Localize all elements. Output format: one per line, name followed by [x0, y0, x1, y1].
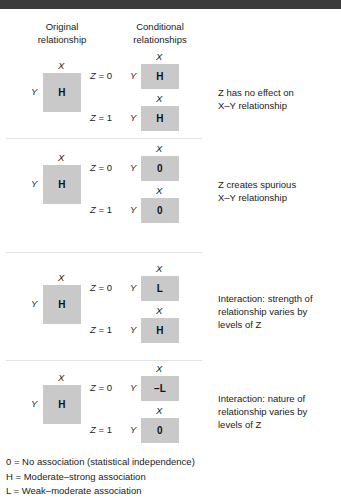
block-separator	[6, 138, 202, 139]
axis-label-x: X	[156, 51, 162, 62]
relationship-block-interaction-nature: X Y H Z = 0 X Y –L Z = 1 X Y 0 Interacti…	[0, 372, 341, 450]
z-variable: Z	[90, 424, 96, 435]
column-header-conditional: Conditional relationships	[108, 21, 212, 46]
z-variable: Z	[90, 324, 96, 335]
axis-label-y: Y	[130, 204, 136, 215]
axis-label-y: Y	[31, 298, 37, 309]
z-variable: Z	[90, 204, 96, 215]
axis-label-y: Y	[130, 70, 136, 81]
legend-item-h: H = Moderate–strong association	[6, 470, 336, 485]
z-variable: Z	[90, 112, 96, 123]
relationship-block-interaction-strength: X Y H Z = 0 X Y L Z = 1 X Y H Interactio…	[0, 272, 341, 350]
axis-label-x: X	[156, 93, 162, 104]
original-cell: H	[43, 73, 81, 112]
legend-item-0: 0 = No association (statistical independ…	[6, 455, 336, 470]
conditional-cell-z0: L	[141, 276, 179, 301]
conditional-cell-z1: 0	[141, 198, 179, 223]
condition-label-z1: Z = 1	[90, 424, 112, 435]
axis-label-y: Y	[31, 86, 37, 97]
condition-label-z1: Z = 1	[90, 204, 112, 215]
block-description: Z has no effect on X–Y relationship	[218, 86, 336, 112]
original-cell: H	[43, 385, 81, 424]
axis-label-y: Y	[130, 424, 136, 435]
axis-label-x: X	[58, 272, 64, 283]
condition-label-z1: Z = 1	[90, 324, 112, 335]
condition-label-z0: Z = 0	[90, 70, 112, 81]
original-cell: H	[43, 165, 81, 204]
axis-label-x: X	[156, 405, 162, 416]
axis-label-x: X	[156, 263, 162, 274]
condition-label-z1: Z = 1	[90, 112, 112, 123]
conditional-cell-z1: H	[141, 106, 179, 131]
block-description: Z creates spurious X–Y relationship	[218, 178, 336, 204]
relationship-block-no-effect: X Y H Z = 0 X Y H Z = 1 X Y H Z has no e…	[0, 60, 341, 138]
axis-label-x: X	[156, 185, 162, 196]
legend-item-l: L = Weak–moderate association	[6, 484, 336, 498]
condition-label-z0: Z = 0	[90, 162, 112, 173]
axis-label-y: Y	[31, 398, 37, 409]
block-separator	[6, 252, 202, 253]
block-separator	[6, 360, 202, 361]
z-variable: Z	[90, 382, 96, 393]
conditional-cell-z1: H	[141, 318, 179, 343]
original-cell: H	[43, 285, 81, 324]
block-description: Interaction: strength of relationship va…	[218, 292, 336, 331]
conditional-cell-z0: H	[141, 64, 179, 89]
axis-label-y: Y	[130, 324, 136, 335]
axis-label-x: X	[156, 305, 162, 316]
condition-label-z0: Z = 0	[90, 282, 112, 293]
conditional-cell-z0: –L	[141, 376, 179, 401]
condition-label-z0: Z = 0	[90, 382, 112, 393]
z-variable: Z	[90, 282, 96, 293]
relationship-block-spurious: X Y H Z = 0 X Y 0 Z = 1 X Y 0 Z creates …	[0, 152, 341, 230]
axis-label-y: Y	[31, 178, 37, 189]
block-description: Interaction: nature of relationship vari…	[218, 392, 336, 431]
axis-label-x: X	[156, 363, 162, 374]
axis-label-y: Y	[130, 112, 136, 123]
conditional-cell-z0: 0	[141, 156, 179, 181]
column-header-original: Original relationship	[10, 21, 114, 46]
conditional-cell-z1: 0	[141, 418, 179, 443]
axis-label-y: Y	[130, 162, 136, 173]
axis-label-x: X	[58, 372, 64, 383]
axis-label-y: Y	[130, 382, 136, 393]
axis-label-x: X	[156, 143, 162, 154]
axis-label-y: Y	[130, 282, 136, 293]
axis-label-x: X	[58, 60, 64, 71]
z-variable: Z	[90, 162, 96, 173]
z-variable: Z	[90, 70, 96, 81]
page-top-rule	[0, 0, 341, 9]
legend-key: 0 = No association (statistical independ…	[6, 455, 336, 498]
axis-label-x: X	[58, 152, 64, 163]
